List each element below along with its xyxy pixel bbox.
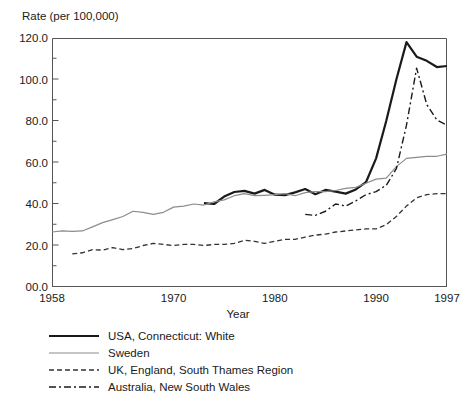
x-tick-label: 1958: [36, 292, 68, 304]
data-series-group: [52, 42, 447, 254]
x-tick-label: 1980: [259, 292, 291, 304]
chart-legend: USA, Connecticut: WhiteSwedenUK, England…: [48, 327, 428, 395]
y-tick-label: 100.0: [19, 74, 48, 86]
plot-area: [52, 38, 447, 287]
series-line-0: [204, 42, 447, 204]
x-axis-tick-labels: 19581970198019901997: [0, 292, 476, 308]
legend-label: USA, Connecticut: White: [108, 329, 235, 343]
axis-spines: [53, 39, 447, 288]
legend-label: UK, England, South Thames Region: [108, 363, 293, 377]
x-tick-label: 1970: [158, 292, 190, 304]
y-axis-tick-labels: 120.0100.080.060.040.020.000.0: [0, 0, 48, 402]
series-line-3: [305, 68, 447, 215]
axis-frame: [52, 39, 447, 288]
chart-figure: Rate (per 100,000) 120.0100.080.060.040.…: [0, 0, 476, 402]
legend-line-swatch: [48, 363, 100, 377]
legend-label: Sweden: [108, 346, 150, 360]
chart-plot-svg: [52, 38, 447, 287]
legend-item: Sweden: [48, 344, 428, 361]
y-tick-label: 80.0: [26, 115, 48, 127]
y-tick-label: 20.0: [26, 240, 48, 252]
legend-item: USA, Connecticut: White: [48, 327, 428, 344]
x-axis-label: Year: [0, 308, 476, 320]
x-tick-label: 1997: [431, 292, 463, 304]
legend-line-swatch: [48, 380, 100, 394]
legend-label: Australia, New South Wales: [108, 380, 250, 394]
series-line-2: [72, 194, 447, 254]
legend-item: UK, England, South Thames Region: [48, 361, 428, 378]
y-tick-label: 120.0: [19, 32, 48, 44]
axis-tick-marks: [53, 38, 448, 287]
legend-line-swatch: [48, 329, 100, 343]
y-tick-label: 40.0: [26, 198, 48, 210]
y-tick-label: 60.0: [26, 157, 48, 169]
legend-item: Australia, New South Wales: [48, 378, 428, 395]
x-tick-label: 1990: [360, 292, 392, 304]
legend-line-swatch: [48, 346, 100, 360]
